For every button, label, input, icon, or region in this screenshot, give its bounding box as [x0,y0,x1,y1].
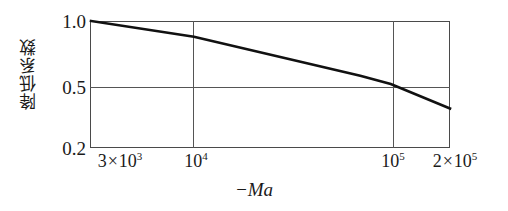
x-axis-title-text: −Ma [235,179,273,200]
x-tick-multiply-sign: × [442,151,454,171]
gridline-vertical-1e5 [393,21,394,148]
x-tick-label-2e5: 2×105 [433,152,478,170]
gridline-vertical-1e4 [193,21,194,148]
x-tick-multiply-sign: × [107,151,119,171]
y-tick-label-1: 1.0 [44,12,86,31]
x-tick-label-1e5: 105 [381,152,405,170]
y-axis-title: 降低系数 [20,38,42,110]
x-tick-base: 10 [184,151,202,171]
x-tick-label-1e4: 104 [184,152,208,170]
x-tick-exponent: 5 [399,150,405,162]
x-tick-exponent: 4 [202,150,208,162]
x-tick-exponent: 5 [472,150,478,162]
x-tick-base: 10 [119,151,137,171]
chart-figure: 降低系数 1.0 0.5 0.2 3×103 104 105 2×105 −Ma [0,0,508,211]
y-tick-label-3: 0.2 [44,139,86,158]
x-tick-coefficient: 3 [98,151,107,171]
x-tick-base: 10 [454,151,472,171]
y-tick-label-2: 0.5 [44,78,86,97]
x-tick-coefficient: 2 [433,151,442,171]
x-tick-base: 10 [381,151,399,171]
x-tick-exponent: 3 [137,150,143,162]
gridline-horizontal-0p5 [90,87,450,88]
plot-area [90,21,450,148]
x-axis-title: −Ma [0,180,508,199]
x-tick-label-3e3: 3×103 [98,152,143,170]
